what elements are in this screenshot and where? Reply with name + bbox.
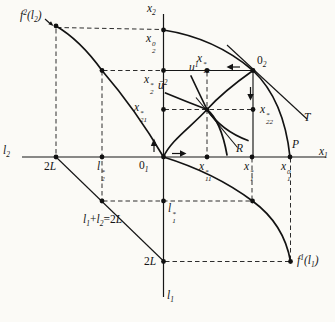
label-l1-axis: l1 (167, 290, 174, 302)
point-l2-star (100, 155, 105, 160)
label-x1-star: x*1 (244, 161, 254, 182)
label-x22-star: x*22 (260, 104, 273, 125)
point-constraint-allocation (100, 199, 105, 204)
point-tangency (205, 107, 209, 111)
f1-production-curve (164, 157, 291, 262)
point-origin-1 (161, 155, 166, 160)
point-origin-2 (251, 68, 256, 73)
point-x1-star (250, 155, 255, 160)
point-l1-star (161, 199, 166, 204)
label-f2-of-l2: f2(l2) (20, 10, 42, 22)
transformation-curve (164, 30, 291, 157)
axes (22, 14, 326, 297)
point-x21-star (161, 107, 166, 112)
indifference-curve-u1 (191, 76, 248, 141)
point-f2-l2star (100, 68, 105, 73)
label-P: P (292, 139, 299, 151)
point-2L-left (54, 155, 59, 160)
label-f1-of-l1: f1(l1) (297, 255, 319, 267)
point-x2-0 (161, 28, 166, 33)
label-x1-axis: x1 (319, 146, 328, 158)
point-2L-bottom (161, 259, 166, 264)
label-u2-bar: ū2 (158, 80, 168, 92)
label-u1: u1 (189, 62, 199, 74)
indifference-curve-u2 (166, 93, 228, 155)
point-x2-star (161, 68, 166, 73)
right-arrow-icon (180, 150, 187, 156)
label-x11-star: x*11 (199, 161, 212, 182)
up-arrow-icon (151, 139, 157, 147)
f2-label-leader (45, 19, 50, 24)
economics-equilibrium-diagram: f2(l2)x2x02x*2x*21x*1202u1ū2x*22RTPx1l22… (0, 0, 335, 322)
dashed-lines (56, 28, 291, 262)
label-tangent-T: T (304, 112, 310, 124)
point-f1-l1star (250, 199, 255, 204)
label-x1-0: x01 (281, 161, 291, 182)
label-x2-0: x02 (146, 33, 156, 54)
label-labor-constraint: l1+l2=2L (83, 214, 122, 226)
label-contract-curve-R: R (236, 143, 243, 155)
label-2L-bottom: 2L (144, 256, 156, 268)
point-f1-end (288, 259, 293, 264)
curves (56, 26, 291, 262)
label-origin-2: 02 (257, 55, 267, 67)
label-x21-star: x*21 (134, 102, 147, 123)
point-x1-0-P (288, 155, 293, 160)
label-x2-axis: x2 (147, 3, 156, 15)
label-2L-left: 2L (44, 161, 56, 173)
label-l2-star: l*2 (97, 161, 105, 182)
point-f2-start (54, 24, 59, 29)
dashed-x20-level (57, 28, 162, 30)
left-arrow-icon (227, 64, 234, 70)
label-x2-star: x*2 (144, 74, 154, 95)
label-origin-1: 01 (139, 160, 149, 172)
point-x22-star (251, 107, 256, 112)
point-x11-star (205, 155, 210, 160)
label-l1-star: l*1 (168, 203, 176, 224)
label-l2-axis: l2 (3, 145, 10, 157)
